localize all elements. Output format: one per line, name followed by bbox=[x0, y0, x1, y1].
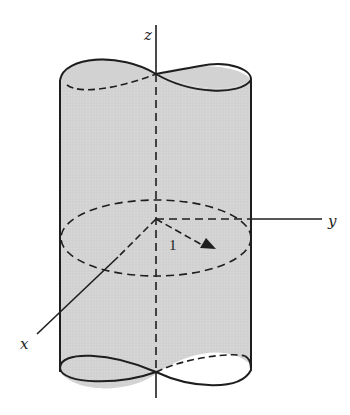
cylinder-diagram: z y x 1 bbox=[0, 0, 350, 415]
radius-label: 1 bbox=[169, 237, 177, 253]
x-axis-label: x bbox=[20, 335, 29, 353]
z-axis-label: z bbox=[143, 26, 152, 44]
y-axis-label: y bbox=[327, 212, 337, 230]
